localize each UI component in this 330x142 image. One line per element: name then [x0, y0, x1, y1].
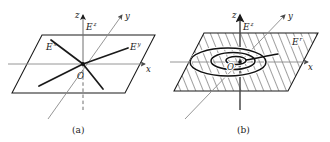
panel-a-label-E-y-sup: y — [137, 41, 142, 48]
panel-b-origin-dot — [238, 60, 242, 64]
panel-a-label-E-z-base: E — [85, 22, 93, 32]
figure-root: z y x O E z E x E y (a) — [0, 0, 330, 142]
panel-b-label-E-r-sup: r — [300, 36, 303, 42]
panel-b-caption: (b) — [237, 125, 250, 135]
panel-b-label-E-z: E z — [242, 21, 254, 33]
panel-b-axis-label-y: y — [287, 11, 293, 21]
panel-b-origin-label: O — [227, 62, 234, 72]
panel-a-vector-lower-right — [83, 64, 103, 89]
panel-a-axis-label-y: y — [124, 11, 130, 21]
panel-b-axis-label-x: x — [308, 62, 313, 72]
panel-b: z y x O O E z E r E r (b) — [170, 10, 318, 135]
panel-a-label-E-x: E x — [45, 41, 58, 53]
panel-a-origin-dot — [81, 62, 85, 66]
panel-b-label-E-z-base: E — [242, 22, 250, 32]
panel-a-label-E-z: E z — [85, 21, 97, 33]
panel-a-caption: (a) — [72, 125, 84, 135]
panel-a-origin-label: O — [77, 71, 84, 81]
panel-a-label-E-z-sup: z — [93, 21, 97, 27]
figure-canvas: z y x O E z E x E y (a) — [0, 0, 330, 142]
panel-a-vector-upper-right — [83, 48, 128, 64]
panel-a-axis-label-z: z — [74, 10, 80, 20]
panel-a: z y x O E z E x E y (a) — [8, 10, 155, 135]
panel-b-label-E-z-sup: z — [250, 21, 254, 27]
panel-a-axis-label-x: x — [146, 64, 151, 74]
panel-b-axis-label-z: z — [231, 10, 237, 20]
panel-a-label-E-y-base: E — [129, 42, 137, 52]
panel-a-label-E-y: E y — [129, 41, 142, 53]
panel-a-label-E-x-base: E — [45, 42, 53, 52]
panel-b-label-E-r-base: E — [291, 37, 299, 47]
